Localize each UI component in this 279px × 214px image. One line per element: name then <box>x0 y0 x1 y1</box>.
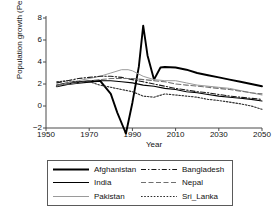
legend-item-afghanistan[interactable]: Afghanistan <box>52 165 140 174</box>
legend-swatch-india <box>52 178 90 187</box>
legend-grid: AfghanistanBangladeshIndiaNepalPakistanS… <box>48 161 232 205</box>
legend-label: Bangladesh <box>182 165 224 174</box>
legend-swatch-nepal <box>140 178 178 187</box>
legend-label: Pakistan <box>94 192 125 201</box>
chart-plot-area: Population growth (Per cent) −202468 195… <box>0 0 279 150</box>
chart-canvas <box>0 0 279 150</box>
chart-legend: AfghanistanBangladeshIndiaNepalPakistanS… <box>47 160 233 206</box>
legend-swatch-sri_lanka <box>140 192 178 201</box>
data-series-group <box>57 26 262 134</box>
x-axis-label: Year <box>46 140 262 149</box>
series-line-afghanistan <box>57 26 262 134</box>
series-line-india <box>57 81 262 101</box>
legend-item-india[interactable]: India <box>52 178 140 187</box>
legend-label: Afghanistan <box>94 165 136 174</box>
legend-item-bangladesh[interactable]: Bangladesh <box>140 165 228 174</box>
chart-figure: Population growth (Per cent) −202468 195… <box>0 0 279 214</box>
legend-label: India <box>94 178 111 187</box>
legend-label: Nepal <box>182 178 203 187</box>
legend-swatch-bangladesh <box>140 165 178 174</box>
legend-swatch-afghanistan <box>52 165 90 174</box>
legend-item-pakistan[interactable]: Pakistan <box>52 192 140 201</box>
legend-label: Sri_Lanka <box>182 192 218 201</box>
legend-item-nepal[interactable]: Nepal <box>140 178 228 187</box>
legend-item-sri_lanka[interactable]: Sri_Lanka <box>140 192 228 201</box>
legend-swatch-pakistan <box>52 192 90 201</box>
